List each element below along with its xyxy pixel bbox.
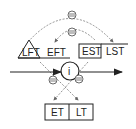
node-label: i <box>68 66 70 77</box>
minus-circle-icon <box>68 28 76 36</box>
lst-label: LST <box>106 46 124 57</box>
successor-block: EST LST <box>79 44 128 58</box>
et-label: ET <box>51 107 64 118</box>
activity-diagram: LFT EFT EST LST i ET LT <box>0 0 136 129</box>
eft-label: EFT <box>47 47 66 58</box>
minus-circle-icon <box>75 75 83 83</box>
lft-label: LFT <box>22 47 40 58</box>
lt-label: LT <box>76 107 87 118</box>
bottom-block: ET LT <box>45 104 93 120</box>
predecessor-block: LFT EFT <box>18 40 70 58</box>
minus-circle-icon <box>68 11 76 19</box>
minus-circle-icon <box>49 76 57 84</box>
est-label: EST <box>82 46 101 57</box>
